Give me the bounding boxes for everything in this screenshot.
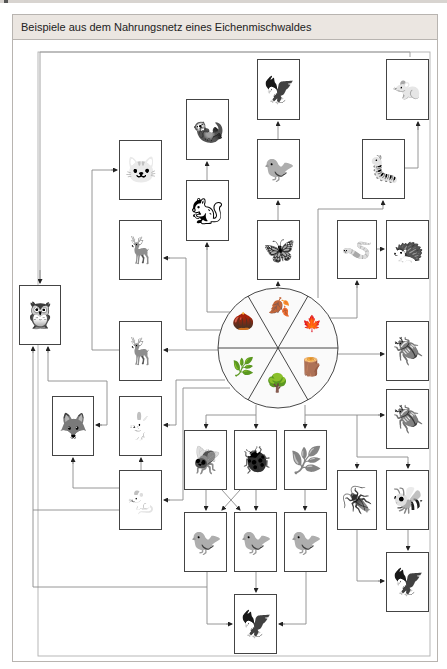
hornet-icon: 🐝 — [392, 487, 424, 513]
node-fliege: 🪰 — [184, 430, 227, 490]
roe-deer-icon: 🦌 — [125, 338, 157, 364]
node-kauz: 🦉 — [19, 285, 61, 345]
node-drossel: 🐦 — [284, 512, 327, 572]
red-deer-icon: 🦌 — [125, 237, 157, 263]
nuthatch-icon: 🐦 — [240, 529, 272, 555]
wheel-segment-herbs: 🌿 — [232, 356, 254, 378]
wheel-segment-leaf-litter: 🍁 — [302, 314, 322, 333]
node-sperber: 🦅 — [257, 59, 300, 120]
node-hirschkaefer: 🪲 — [386, 321, 429, 381]
node-hase: 🐇 — [119, 396, 162, 456]
node-reh: 🦌 — [119, 321, 162, 381]
mistletoe-icon: 🌿 — [290, 447, 322, 473]
node-maulwurf: 🐀 — [386, 59, 429, 120]
node-meise: 🐦 — [257, 139, 300, 199]
mouse-icon: 🐁 — [125, 487, 157, 513]
node-marder: 🦦 — [186, 99, 229, 160]
owl-icon: 🦉 — [24, 302, 56, 328]
wheel-segment-acorns: 🌰 — [232, 310, 254, 332]
node-fuchs: 🦊 — [52, 396, 94, 456]
woodpecker-icon: 🐦 — [190, 529, 222, 555]
node-hundertfuesser: 🐛 — [362, 139, 405, 199]
node-bussard: 🦅 — [386, 552, 429, 612]
node-kaefer: 🐞 — [234, 430, 277, 490]
hedgehog-icon: 🦔 — [392, 237, 424, 263]
falcon-icon: 🦅 — [240, 611, 272, 637]
node-bockkaefer: 🪲 — [386, 389, 429, 449]
marten-icon: 🦦 — [192, 117, 224, 143]
node-hirsch: 🦌 — [119, 220, 162, 280]
stag-beetle-icon: 🪲 — [392, 338, 424, 364]
longhorn-beetle-icon: 🪲 — [392, 406, 424, 432]
wheel-segment-oak-leaf: 🍂 — [268, 296, 290, 318]
wheel-segment-bark: 🪵 — [300, 356, 322, 378]
node-falter: 🦋 — [257, 220, 300, 280]
node-igel: 🦔 — [386, 220, 429, 279]
hare-icon: 🐇 — [125, 413, 157, 439]
mole-icon: 🐀 — [392, 77, 424, 103]
node-eichhoernchen: 🐿 — [186, 180, 229, 241]
moth-icon: 🦋 — [263, 237, 295, 263]
node-hornisse: 🐝 — [386, 470, 429, 530]
node-grossbock: 🪳 — [337, 470, 377, 530]
wildcat-icon: 🐱 — [125, 157, 157, 183]
buzzard-icon: 🦅 — [392, 569, 424, 595]
centipede-icon: 🐛 — [368, 156, 400, 182]
large-longhorn-beetle-icon: 🪳 — [341, 487, 373, 513]
node-maus: 🐁 — [119, 470, 162, 530]
beetle-icon: 🐞 — [240, 447, 272, 473]
thrush-icon: 🐦 — [290, 529, 322, 555]
wheel-segment-stump: 🌳 — [266, 372, 288, 394]
node-falke: 🦅 — [234, 594, 277, 654]
earthworm-icon: 🪱 — [341, 237, 373, 263]
node-wildkatze: 🐱 — [119, 140, 162, 200]
squirrel-icon: 🐿 — [191, 198, 224, 224]
node-kleiber: 🐦 — [234, 512, 277, 572]
sparrowhawk-icon: 🦅 — [263, 77, 295, 103]
fly-icon: 🪰 — [190, 447, 222, 473]
tit-bird-icon: 🐦 — [263, 156, 295, 182]
node-regenwurm: 🪱 — [337, 220, 377, 279]
node-mistel: 🌿 — [284, 430, 327, 490]
node-specht: 🐦 — [184, 512, 227, 572]
fox-icon: 🦊 — [57, 413, 89, 439]
